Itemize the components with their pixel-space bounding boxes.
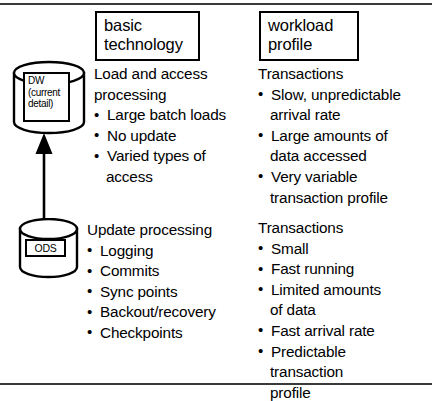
list-item: • Large batch loads — [94, 105, 244, 126]
bullet-icon: • — [94, 125, 99, 146]
list-item: • Checkpoints — [87, 323, 242, 344]
list-item-text: Fast arrival rate — [271, 322, 375, 339]
dw-technology-list: • Large batch loads • No update • Varied… — [94, 105, 244, 187]
dw-technology-heading-line-2: processing — [94, 85, 244, 106]
bullet-icon: • — [258, 84, 263, 105]
bullet-icon: • — [87, 240, 92, 261]
list-item-text-cont: transaction — [270, 362, 432, 383]
list-item: • Slow, unpredictable arrival rate — [258, 85, 432, 126]
dw-label-line-1: DW — [28, 75, 66, 87]
basic-technology-header-box: basic technology — [95, 11, 200, 61]
bullet-icon: • — [87, 281, 92, 302]
list-item-text-cont: data accessed — [270, 146, 432, 167]
list-item-text: Large amounts of — [271, 127, 388, 144]
list-item: • Varied types of access — [94, 146, 244, 187]
list-item: • Fast running — [258, 259, 432, 280]
ods-workload-list: • Small • Fast running • Limited amounts… — [258, 239, 432, 401]
dw-label-line-2: (current — [28, 87, 66, 99]
dw-workload-heading: Transactions — [258, 64, 432, 85]
dw-workload-list: • Slow, unpredictable arrival rate • Lar… — [258, 85, 432, 209]
list-item-text: Very variable — [271, 168, 357, 185]
ods-workload-heading: Transactions — [258, 218, 432, 239]
list-item: • No update — [94, 126, 244, 147]
list-item: • Commits — [87, 261, 242, 282]
bullet-icon: • — [258, 341, 263, 362]
ods-technology-heading: Update processing — [87, 220, 242, 241]
dw-workload-block: Transactions • Slow, unpredictable arriv… — [258, 64, 432, 208]
basic-technology-line-2: technology — [104, 35, 191, 54]
list-item-text: Sync points — [100, 283, 177, 300]
bullet-icon: • — [87, 322, 92, 343]
dw-label-line-3: detail) — [28, 98, 66, 110]
dw-entity: DW (current detail) — [11, 60, 87, 136]
dw-technology-block: Load and access processing • Large batch… — [94, 64, 244, 188]
dw-technology-heading-line-1: Load and access — [94, 64, 244, 85]
frame-rule-top — [0, 3, 432, 5]
bullet-icon: • — [87, 302, 92, 323]
bullet-icon: • — [94, 146, 99, 167]
ods-label-text: ODS — [27, 241, 64, 255]
list-item-text: Large batch loads — [107, 106, 226, 123]
list-item-text: Commits — [100, 262, 159, 279]
ods-technology-block: Update processing • Logging • Commits • … — [87, 220, 242, 344]
list-item-text-cont: access — [106, 167, 244, 188]
list-item-text: Limited amounts — [271, 281, 381, 298]
bullet-icon: • — [258, 320, 263, 341]
basic-technology-line-1: basic — [104, 16, 191, 35]
workload-profile-line-1: workload — [268, 16, 350, 35]
list-item: • Fast arrival rate — [258, 321, 432, 342]
list-item: • Small — [258, 239, 432, 260]
list-item-text: Checkpoints — [100, 324, 183, 341]
list-item-text: Fast running — [271, 260, 354, 277]
ods-entity: ODS — [17, 218, 80, 280]
list-item-text-cont: transaction profile — [270, 188, 432, 209]
bullet-icon: • — [258, 166, 263, 187]
workload-profile-header-box: workload profile — [259, 11, 359, 61]
list-item-text: Backout/recovery — [100, 303, 216, 320]
bullet-icon: • — [258, 259, 263, 280]
ods-label: ODS — [25, 239, 66, 257]
list-item-text: Small — [271, 240, 309, 257]
list-item-text-cont: of data — [270, 300, 432, 321]
ods-technology-list: • Logging • Commits • Sync points • Back… — [87, 241, 242, 344]
bullet-icon: • — [87, 261, 92, 282]
workload-profile-line-2: profile — [268, 35, 350, 54]
list-item-text: Slow, unpredictable — [271, 86, 401, 103]
list-item-text: No update — [107, 127, 176, 144]
bullet-icon: • — [94, 105, 99, 126]
list-item: • Large amounts of data accessed — [258, 126, 432, 167]
up-arrow-icon — [32, 132, 56, 222]
ods-workload-block: Transactions • Small • Fast running • Li… — [258, 218, 432, 401]
dw-label: DW (current detail) — [23, 72, 70, 122]
list-item: • Logging — [87, 241, 242, 262]
bullet-icon: • — [258, 279, 263, 300]
list-item-text: Logging — [100, 242, 153, 259]
list-item-text-cont-2: profile — [270, 383, 432, 401]
bullet-icon: • — [258, 238, 263, 259]
bullet-icon: • — [258, 125, 263, 146]
list-item-text: Varied types of — [107, 147, 206, 164]
list-item: • Backout/recovery — [87, 302, 242, 323]
list-item: • Very variable transaction profile — [258, 167, 432, 208]
list-item: • Sync points — [87, 282, 242, 303]
list-item-text-cont: arrival rate — [270, 105, 432, 126]
list-item: • Predictable transaction profile — [258, 342, 432, 401]
list-item-text: Predictable — [271, 343, 346, 360]
list-item: • Limited amounts of data — [258, 280, 432, 321]
